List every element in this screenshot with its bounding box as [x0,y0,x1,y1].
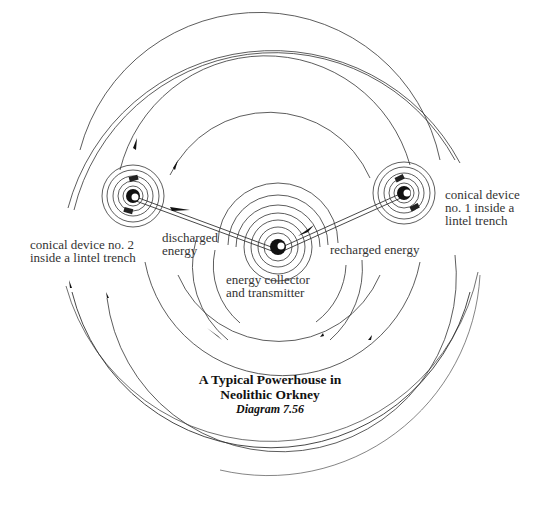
title-line-1: A Typical Powerhouse in [190,372,350,387]
label-recharged-energy: recharged energy [330,243,419,256]
recharge-rod [282,193,402,247]
label-line: and transmitter [226,286,310,299]
label-line: lintel trench [445,214,520,227]
outer-ring-arc [72,292,470,448]
diagram-caption: Diagram 7.56 [190,402,350,416]
title-line-2: Neolithic Orkney [190,387,350,402]
conical-device-1 [395,174,420,211]
label-line: energy [162,244,218,257]
energy-collector-node [270,239,286,255]
arrow-recharge-icon [298,225,314,236]
label-line: inside a lintel trench [30,251,136,264]
diagram-title: A Typical Powerhouse in Neolithic Orkney… [190,372,350,416]
label-discharged-energy: discharged energy [162,231,218,257]
conical-device-2 [123,175,140,214]
label-device-2: conical device no. 2 inside a lintel tre… [30,238,136,264]
label-device-1: conical device no. 1 inside a lintel tre… [445,188,520,227]
label-energy-collector: energy collector and transmitter [226,273,310,299]
arrow-discharge-icon [170,207,190,211]
